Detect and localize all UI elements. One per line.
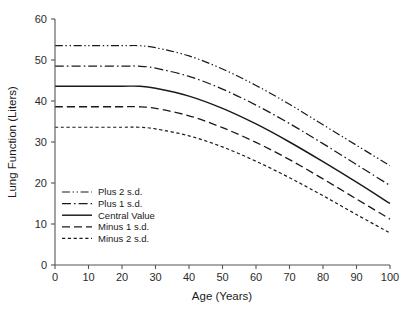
y-axis-title: Lung Function (Liters) [6,86,18,198]
x-tick-label: 90 [350,271,362,283]
y-tick-label: 0 [41,259,47,271]
x-axis-ticks: 0102030405060708090100 [52,265,399,283]
y-tick-label: 20 [35,177,47,189]
x-tick-label: 100 [381,271,399,283]
y-tick-label: 30 [35,136,47,148]
legend-label-4: Minus 2 s.d. [98,233,149,244]
x-tick-label: 40 [183,271,195,283]
x-tick-label: 70 [283,271,295,283]
curve-series-0 [55,45,390,165]
x-axis-title: Age (Years) [192,290,252,302]
x-tick-label: 30 [149,271,161,283]
y-tick-label: 40 [35,95,47,107]
legend-label-1: Plus 1 s.d. [98,198,142,209]
y-tick-label: 50 [35,54,47,66]
x-tick-label: 80 [317,271,329,283]
chart-canvas: 0102030405060 0102030405060708090100 Age… [0,0,420,314]
lung-function-chart: 0102030405060 0102030405060708090100 Age… [0,0,420,314]
x-tick-label: 10 [82,271,94,283]
y-axis-ticks: 0102030405060 [35,13,55,271]
x-tick-label: 20 [116,271,128,283]
legend-label-0: Plus 2 s.d. [98,186,142,197]
legend: Plus 2 s.d.Plus 1 s.d.Central ValueMinus… [62,186,155,243]
x-tick-label: 0 [52,271,58,283]
x-tick-label: 60 [250,271,262,283]
y-tick-label: 60 [35,13,47,25]
legend-label-2: Central Value [98,210,155,221]
x-tick-label: 50 [216,271,228,283]
curve-series-1 [55,66,390,185]
y-tick-label: 10 [35,218,47,230]
legend-label-3: Minus 1 s.d. [98,221,149,232]
